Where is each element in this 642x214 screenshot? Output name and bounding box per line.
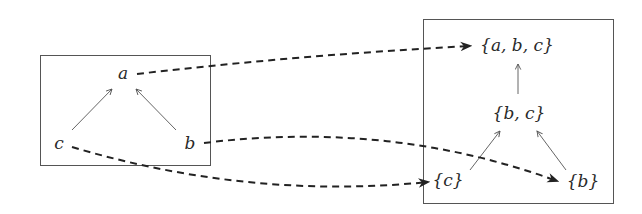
mapping-c-to-c-set xyxy=(72,147,428,187)
node-set-b: {b} xyxy=(567,171,600,191)
node-b: b xyxy=(185,133,196,153)
edge-c-to-bc xyxy=(470,131,500,170)
node-c: c xyxy=(54,133,64,153)
edge-b-to-a xyxy=(136,89,176,130)
node-set-abc: {a, b, c} xyxy=(480,35,554,55)
mapping-b-to-b-set xyxy=(204,137,557,181)
edge-b-to-bc xyxy=(537,131,566,170)
poset-embedding-diagram: a c b {a, b, c} {b, c} {c} {b} xyxy=(0,0,642,214)
node-set-bc: {b, c} xyxy=(493,103,546,123)
mapping-a-to-abc xyxy=(137,46,470,74)
edge-c-to-a xyxy=(72,89,112,130)
node-a: a xyxy=(118,63,128,83)
node-set-c: {c} xyxy=(432,170,463,190)
